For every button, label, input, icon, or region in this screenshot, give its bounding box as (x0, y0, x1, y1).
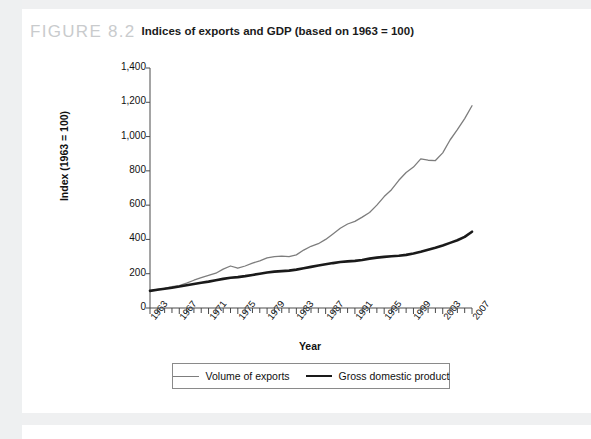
legend-item-gdp: Gross domestic product (306, 370, 450, 382)
legend-label-gdp: Gross domestic product (339, 370, 450, 382)
series-line-gdp (150, 232, 472, 291)
legend-item-exports: Volume of exports (173, 370, 290, 382)
legend-label-exports: Volume of exports (206, 370, 290, 382)
figure-page: FIGURE 8.2Indices of exports and GDP (ba… (0, 0, 591, 439)
legend-line-icon-exports (173, 376, 199, 377)
legend-line-icon-gdp (306, 375, 332, 377)
series-line-exports (150, 106, 472, 291)
chart-legend: Volume of exports Gross domestic product (172, 363, 450, 389)
